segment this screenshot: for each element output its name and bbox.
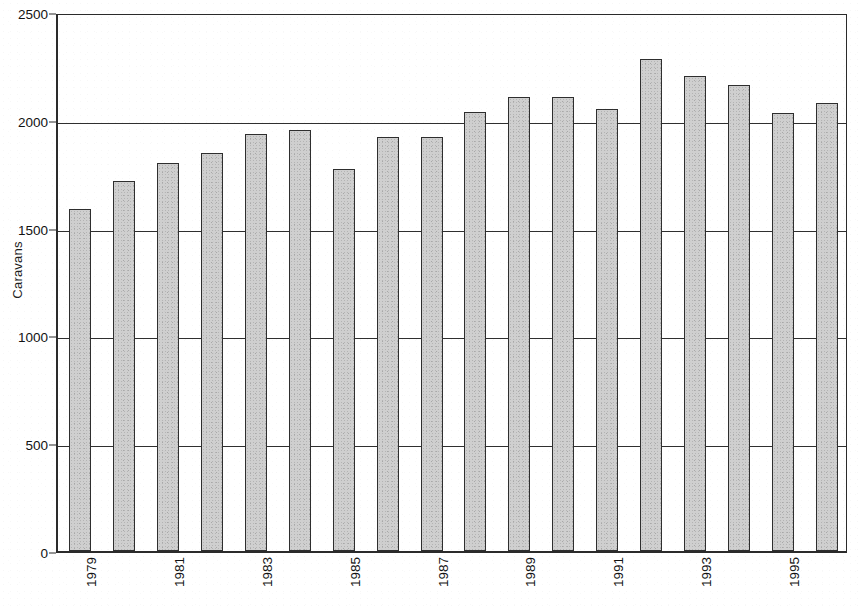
bar <box>333 169 355 551</box>
y-axis-tick-mark <box>49 14 56 15</box>
y-axis-tick-mark <box>49 229 56 230</box>
y-axis-tick-label: 2500 <box>18 7 48 22</box>
bar <box>245 134 267 551</box>
y-axis-tick-label: 500 <box>25 438 48 453</box>
x-axis-tick-label: 1985 <box>348 557 363 587</box>
y-axis-tick-mark <box>49 445 56 446</box>
bar-series <box>58 15 846 551</box>
x-axis-tick-label: 1987 <box>436 557 451 587</box>
x-axis-tick-labels: 197919811983198519871989199119931995 <box>56 553 847 609</box>
plot-area <box>56 14 847 553</box>
y-axis-tick-label: 0 <box>40 546 48 561</box>
y-axis-tick-labels: 05001000150020002500 <box>0 0 56 609</box>
x-axis-tick-label: 1989 <box>523 557 538 587</box>
x-axis-tick-label: 1981 <box>172 557 187 587</box>
bar <box>772 113 794 551</box>
y-axis-tick-label: 2000 <box>18 114 48 129</box>
bar <box>421 137 443 551</box>
bar <box>201 153 223 551</box>
x-axis-tick-label: 1983 <box>260 557 275 587</box>
x-axis-tick-label: 1979 <box>84 557 99 587</box>
bar <box>552 97 574 551</box>
bar <box>684 76 706 551</box>
y-axis-tick-label: 1000 <box>18 330 48 345</box>
x-axis-tick-label: 1991 <box>611 557 626 587</box>
bar <box>69 209 91 551</box>
y-axis-tick-label: 1500 <box>18 222 48 237</box>
y-axis-tick-mark <box>49 121 56 122</box>
bar <box>596 109 618 551</box>
y-axis-tick-mark <box>49 553 56 554</box>
bar <box>728 85 750 551</box>
bar <box>157 163 179 551</box>
bar <box>508 97 530 551</box>
bar <box>377 137 399 551</box>
bar <box>640 59 662 551</box>
y-axis-tick-mark <box>49 337 56 338</box>
bar <box>289 130 311 551</box>
x-axis-tick-label: 1993 <box>699 557 714 587</box>
bar-chart: Caravans 05001000150020002500 1979198119… <box>0 0 858 609</box>
bar <box>816 103 838 551</box>
bar <box>464 112 486 551</box>
x-axis-tick-label: 1995 <box>787 557 802 587</box>
bar <box>113 181 135 551</box>
